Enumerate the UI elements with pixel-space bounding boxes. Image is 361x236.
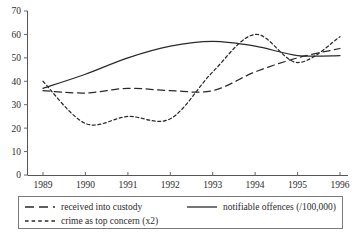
long-dash-line-icon	[25, 203, 55, 211]
series-line-crime-as-top-concern	[43, 34, 340, 125]
y-tick-label: 0	[16, 170, 21, 180]
x-tick-marks	[43, 172, 340, 176]
legend-label: notifiable offences (/100,000)	[223, 202, 336, 213]
x-tick-label: 1994	[246, 180, 265, 190]
x-tick-label: 1992	[161, 180, 180, 190]
y-axis-group: 70 60 50 40 30 20 10 0	[12, 6, 28, 180]
series-line-notifiable-offences	[43, 41, 340, 88]
legend-entry-received-into-custody: received into custody	[25, 202, 187, 213]
y-tick-label: 70	[12, 6, 22, 16]
legend-label: crime as top concern (x2)	[61, 216, 158, 227]
y-tick-label: 60	[12, 30, 22, 40]
x-axis-group: 1989 1990 1991 1992 1993 1994 1995 1996	[28, 172, 350, 190]
x-tick-labels: 1989 1990 1991 1992 1993 1994 1995 1996	[34, 180, 350, 190]
short-dash-line-icon	[25, 217, 55, 225]
legend-row-1: received into custody notifiable offence…	[25, 200, 336, 214]
x-tick-label: 1991	[118, 180, 137, 190]
y-tick-labels: 70 60 50 40 30 20 10 0	[12, 6, 22, 180]
x-tick-label: 1990	[76, 180, 95, 190]
y-tick-label: 30	[12, 100, 22, 110]
y-tick-label: 10	[12, 147, 22, 157]
legend-entry-crime-as-top-concern: crime as top concern (x2)	[25, 216, 195, 227]
chart-legend: received into custody notifiable offence…	[18, 196, 343, 229]
y-tick-label: 50	[12, 53, 22, 63]
x-tick-label: 1989	[34, 180, 53, 190]
chart-container: 70 60 50 40 30 20 10 0	[0, 0, 361, 236]
y-tick-marks	[24, 11, 28, 175]
legend-label: received into custody	[61, 202, 142, 213]
series-paths	[43, 34, 340, 125]
solid-line-icon	[187, 203, 217, 211]
legend-row-2: crime as top concern (x2)	[25, 214, 336, 228]
x-tick-label: 1993	[203, 180, 222, 190]
y-tick-label: 20	[12, 124, 22, 134]
x-tick-label: 1995	[288, 180, 307, 190]
legend-entry-notifiable-offences: notifiable offences (/100,000)	[187, 202, 336, 213]
line-chart-plot: 70 60 50 40 30 20 10 0	[0, 0, 361, 196]
y-tick-label: 40	[12, 77, 22, 87]
x-tick-label: 1996	[331, 180, 350, 190]
